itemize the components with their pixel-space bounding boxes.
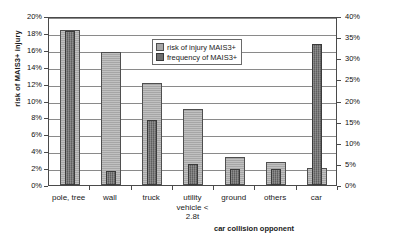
chart-legend: risk of injury MAIS3+frequency of MAIS3+ (152, 39, 242, 65)
x-axis-category-label: utility vehicle < 2.8t (172, 193, 213, 222)
x-axis-tickmark (254, 186, 255, 190)
bar-frequency (188, 164, 198, 185)
x-axis-tickmark (337, 186, 338, 190)
y-axis-left-tick-label: 2% (14, 165, 42, 173)
bar-frequency (106, 171, 116, 185)
bar-frequency (312, 44, 322, 185)
x-axis-category-label: pole, tree (48, 193, 89, 203)
bar-risk-of-injury (101, 52, 121, 186)
y-axis-right-tick-label: 40% (345, 13, 375, 21)
y-axis-right-tick-label: 10% (345, 140, 375, 148)
bar-chart: risk of MAIS3+ injury frequency of MAIS3… (0, 0, 405, 244)
bar-group (297, 18, 338, 185)
legend-item: risk of injury MAIS3+ (156, 42, 237, 52)
y-axis-right-tick-label: 35% (345, 34, 375, 42)
legend-label: frequency of MAIS3+ (167, 53, 237, 62)
y-axis-right-tick-label: 0% (345, 182, 375, 190)
legend-label: risk of injury MAIS3+ (167, 43, 236, 52)
y-axis-right-tick-label: 25% (345, 76, 375, 84)
y-axis-left-tick-label: 14% (14, 64, 42, 72)
y-axis-left-tick-label: 16% (14, 47, 42, 55)
bar-frequency (147, 120, 157, 185)
y-axis-right-tick-label: 30% (345, 55, 375, 63)
x-axis-tickmark (296, 186, 297, 190)
bar-frequency (65, 31, 75, 185)
y-axis-right-tick-label: 20% (345, 98, 375, 106)
y-axis-left-tick-label: 8% (14, 114, 42, 122)
y-axis-left-tick-label: 10% (14, 98, 42, 106)
y-axis-left-tick-label: 12% (14, 81, 42, 89)
y-axis-left-tick-label: 4% (14, 148, 42, 156)
bar-group (90, 18, 131, 185)
x-axis-category-label: car (296, 193, 337, 203)
bar-frequency (230, 169, 240, 185)
y-axis-left-tick-label: 18% (14, 30, 42, 38)
legend-item: frequency of MAIS3+ (156, 52, 237, 62)
x-axis-category-label: ground (213, 193, 254, 203)
y-axis-left-tickmark (44, 186, 48, 187)
x-axis-category-label: wall (89, 193, 130, 203)
x-axis-title: car collision opponent (214, 224, 294, 233)
x-axis-tickmark (131, 186, 132, 190)
x-axis-category-label: others (254, 193, 295, 203)
bar-group (49, 18, 90, 185)
y-axis-left-tick-label: 6% (14, 131, 42, 139)
x-axis-category-label: truck (131, 193, 172, 203)
legend-swatch-freq (156, 53, 164, 61)
legend-swatch-risk (156, 43, 164, 51)
y-axis-left-tick-label: 20% (14, 13, 42, 21)
y-axis-left-tick-label: 0% (14, 182, 42, 190)
y-axis-right-tick-label: 5% (345, 161, 375, 169)
x-axis-tickmark (213, 186, 214, 190)
bar-frequency (271, 169, 281, 185)
bar-group (255, 18, 296, 185)
x-axis-tickmark (89, 186, 90, 190)
y-axis-right-tick-label: 15% (345, 119, 375, 127)
x-axis-tickmark (172, 186, 173, 190)
